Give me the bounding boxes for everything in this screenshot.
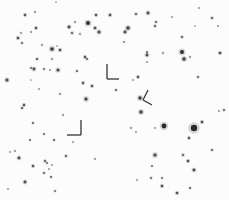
star bbox=[146, 54, 149, 57]
star bbox=[72, 141, 73, 142]
marker-line bbox=[143, 90, 148, 100]
star bbox=[29, 139, 31, 141]
star bbox=[86, 21, 90, 25]
star bbox=[201, 121, 204, 124]
star bbox=[217, 25, 218, 26]
star bbox=[68, 26, 71, 29]
star bbox=[137, 76, 139, 78]
star bbox=[50, 176, 52, 178]
star bbox=[79, 33, 81, 35]
star bbox=[65, 155, 67, 157]
star bbox=[211, 149, 213, 151]
star bbox=[189, 56, 191, 58]
star bbox=[46, 162, 48, 164]
star bbox=[218, 110, 219, 111]
star bbox=[14, 150, 16, 152]
star-group bbox=[4, 1, 226, 195]
star bbox=[154, 127, 155, 128]
star bbox=[162, 124, 167, 129]
star bbox=[182, 154, 184, 156]
star bbox=[32, 122, 34, 124]
star bbox=[21, 107, 23, 109]
star bbox=[94, 27, 97, 30]
star bbox=[132, 79, 133, 80]
star bbox=[49, 69, 50, 70]
star bbox=[181, 36, 183, 38]
star bbox=[84, 97, 87, 100]
star bbox=[33, 68, 36, 71]
star bbox=[51, 58, 53, 60]
star bbox=[59, 93, 61, 95]
star bbox=[30, 31, 32, 33]
star bbox=[191, 125, 197, 131]
star bbox=[223, 109, 225, 111]
star bbox=[161, 185, 164, 188]
star bbox=[123, 41, 125, 43]
target-marker-1 bbox=[107, 64, 119, 79]
star bbox=[36, 58, 38, 60]
star bbox=[154, 25, 156, 27]
star bbox=[44, 160, 46, 162]
star-field-canvas bbox=[0, 0, 229, 200]
star bbox=[162, 52, 164, 54]
star bbox=[155, 21, 157, 23]
star bbox=[109, 14, 112, 17]
star bbox=[182, 57, 185, 60]
star bbox=[9, 151, 10, 152]
star bbox=[115, 89, 117, 91]
star bbox=[139, 110, 142, 113]
star bbox=[34, 11, 36, 13]
star bbox=[48, 168, 49, 169]
star bbox=[57, 69, 60, 72]
star bbox=[43, 68, 45, 70]
star bbox=[30, 79, 31, 80]
star bbox=[130, 127, 132, 129]
star bbox=[146, 61, 147, 62]
star bbox=[43, 133, 45, 135]
star-field-image bbox=[0, 0, 229, 200]
star bbox=[94, 158, 96, 160]
star bbox=[95, 14, 97, 16]
target-marker-3 bbox=[67, 120, 81, 135]
star bbox=[56, 45, 57, 46]
star bbox=[124, 31, 127, 34]
star bbox=[176, 192, 179, 195]
star bbox=[24, 181, 27, 184]
star bbox=[135, 13, 137, 15]
target-marker-2 bbox=[143, 90, 152, 105]
star bbox=[161, 177, 163, 179]
star bbox=[18, 157, 21, 160]
star bbox=[38, 88, 39, 89]
star bbox=[153, 153, 156, 156]
star bbox=[24, 14, 26, 16]
star bbox=[197, 76, 199, 78]
star bbox=[135, 131, 136, 132]
star bbox=[51, 164, 52, 165]
star bbox=[54, 190, 56, 192]
star bbox=[194, 25, 195, 26]
star bbox=[20, 32, 22, 34]
star bbox=[126, 26, 129, 29]
star bbox=[98, 31, 101, 34]
star bbox=[82, 82, 84, 84]
star bbox=[55, 1, 56, 2]
star bbox=[62, 114, 64, 116]
star bbox=[188, 137, 190, 139]
star bbox=[35, 27, 37, 29]
star bbox=[138, 96, 141, 99]
star bbox=[6, 79, 9, 82]
star bbox=[198, 7, 199, 8]
star bbox=[41, 44, 43, 46]
star bbox=[150, 177, 152, 179]
star bbox=[76, 70, 78, 72]
star bbox=[151, 165, 153, 167]
star bbox=[53, 139, 55, 141]
star bbox=[189, 187, 191, 189]
star bbox=[50, 47, 54, 51]
star bbox=[86, 58, 88, 60]
star bbox=[147, 12, 150, 15]
star bbox=[171, 16, 172, 17]
star bbox=[23, 104, 25, 106]
star bbox=[193, 169, 196, 172]
star bbox=[21, 42, 23, 44]
